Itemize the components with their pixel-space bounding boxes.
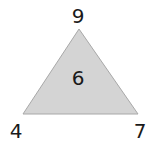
bottom-right-vertex-label: 7	[130, 121, 150, 141]
center-value-label: 6	[68, 68, 88, 88]
top-vertex-label: 9	[68, 6, 88, 26]
bottom-left-vertex-label: 4	[6, 121, 26, 141]
number-triangle-diagram: 9 6 4 7	[0, 0, 155, 156]
